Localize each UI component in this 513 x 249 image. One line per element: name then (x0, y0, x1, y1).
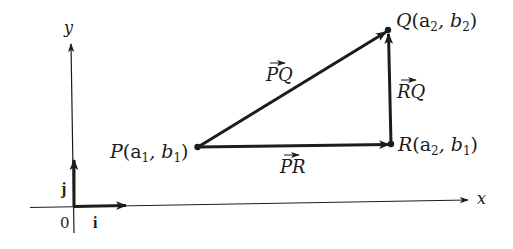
point-q (385, 27, 391, 33)
unit-vector-j-label: j (60, 180, 66, 198)
x-axis-label: x (477, 189, 486, 208)
unit-vector-i (74, 206, 126, 207)
vector-rq-label: RQ (396, 80, 426, 102)
vector-pr (198, 145, 389, 148)
vector-diagram: y x 0 j i P(a1, b1) Q(a2, b2) R(a2, b1) … (0, 0, 513, 249)
point-q-label: Q(a2, b2) (396, 9, 477, 34)
point-r-label: R(a2, b1) (397, 133, 478, 158)
point-r (388, 141, 394, 147)
unit-vector-i-label: i (93, 214, 98, 231)
vector-rq (389, 34, 392, 144)
svg-text:RQ: RQ (396, 81, 426, 102)
point-p-label: P(a1, b1) (109, 140, 189, 165)
svg-text:PR: PR (279, 156, 306, 177)
vector-pq-label: PQ (265, 63, 293, 85)
y-axis-label: y (63, 18, 74, 37)
origin-label: 0 (60, 214, 70, 232)
svg-text:PQ: PQ (265, 64, 293, 85)
vector-pq (198, 32, 386, 147)
point-p (194, 144, 200, 150)
vector-pr-label: PR (279, 155, 306, 177)
